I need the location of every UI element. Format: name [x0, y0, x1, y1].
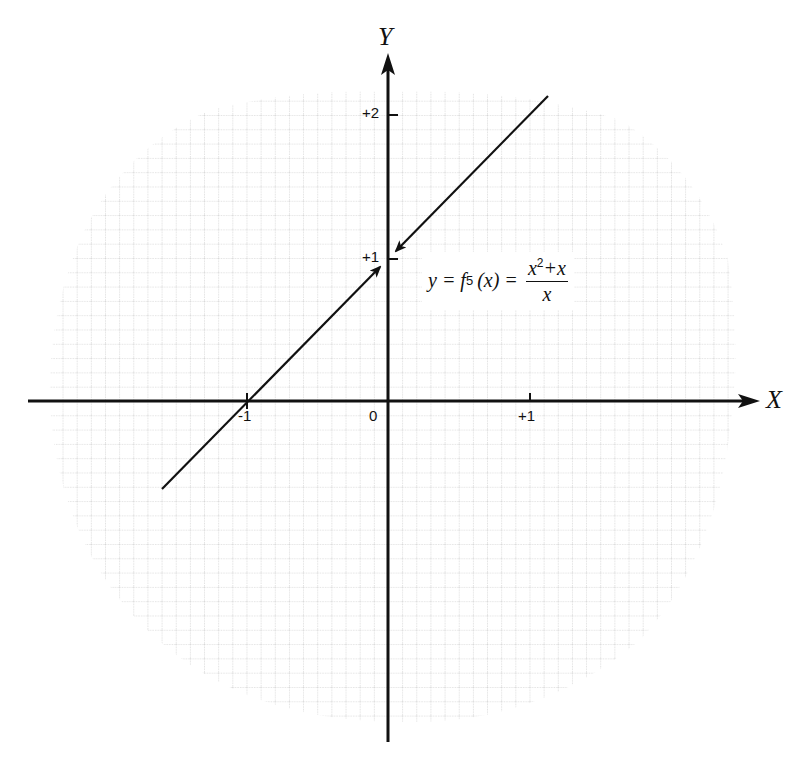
y-axis-label: Y [378, 22, 392, 52]
origin-label: 0 [369, 407, 377, 424]
graph-canvas [0, 0, 811, 777]
formula-lhs: y = f [428, 269, 466, 292]
x-axis-label: X [766, 385, 782, 415]
numerator-rest: +x [543, 257, 565, 279]
grid-paper [0, 0, 811, 777]
x-tick-label-neg1: -1 [238, 407, 251, 424]
formula-numerator: x2+x [526, 256, 568, 282]
graph-figure: Y X +2 +1 -1 0 +1 y = f5 (x) = x2+x x [0, 0, 811, 777]
x-tick-label-pos1: +1 [518, 407, 535, 424]
function-formula: y = f5 (x) = x2+x x [422, 252, 574, 310]
formula-fraction: x2+x x [526, 256, 568, 306]
y-tick-label-2: +2 [362, 104, 379, 121]
formula-arg: (x) = [477, 269, 518, 292]
formula-denominator: x [542, 282, 551, 306]
numerator-base: x [528, 257, 537, 279]
y-tick-label-1: +1 [362, 248, 379, 265]
formula-subscript: 5 [466, 273, 473, 288]
